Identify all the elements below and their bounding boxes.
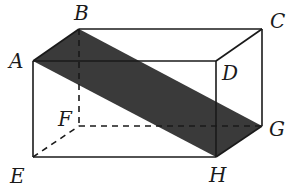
label-f: F [57,107,73,131]
label-h: H [208,163,227,187]
label-b: B [73,1,89,25]
shaded-plane-abgh [33,29,262,157]
label-g: G [269,117,285,141]
label-d: D [221,61,238,85]
label-a: A [7,49,23,73]
label-c: C [270,9,285,33]
edge-cd [216,29,262,61]
hidden-edge-ef [33,126,79,157]
label-e: E [9,164,25,188]
prism-diagram: A B C D E F G H [0,0,298,193]
